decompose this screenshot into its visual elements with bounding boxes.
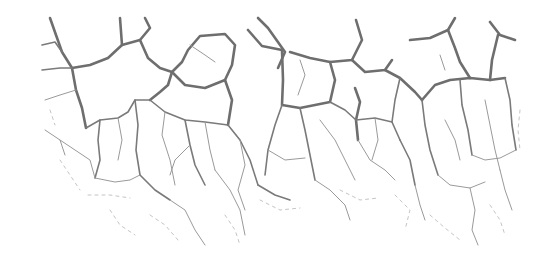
heavy-cracks bbox=[50, 18, 515, 140]
crack-pattern-graphic bbox=[0, 0, 547, 257]
thin-cracks bbox=[45, 45, 516, 245]
crackle-texture bbox=[0, 0, 547, 257]
